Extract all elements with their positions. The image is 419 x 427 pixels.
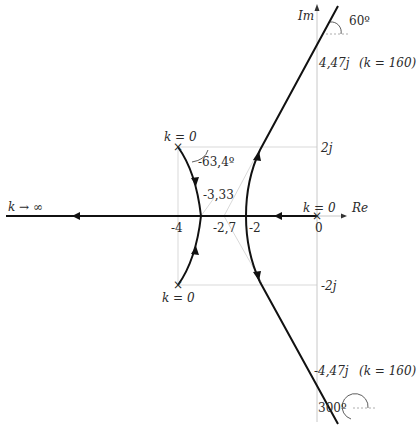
departure-angle-label: -63,4º — [198, 155, 235, 169]
tick-neg2j: -2j — [321, 279, 337, 293]
real-axis-label: Re — [351, 201, 368, 215]
origin-label: 0 — [315, 221, 323, 235]
tick-4-47j: 4,47j — [318, 56, 350, 70]
k0-origin-label: k = 0 — [303, 201, 336, 215]
angle-300-label: 300º — [318, 401, 347, 415]
k0-bottom-label: k = 0 — [162, 291, 195, 305]
branch-right-lower — [246, 216, 338, 424]
real-axis-arrow-icon — [341, 214, 347, 219]
root-locus-diagram: × × × Im Re 0 -4 -2,7 -2 2j -2j 4,47j -4… — [0, 0, 419, 427]
k160-top-label: (k = 160) — [359, 56, 417, 70]
k-infinity-label: k → ∞ — [8, 200, 43, 214]
imag-axis-label: Im — [297, 9, 314, 23]
tick-neg4: -4 — [171, 221, 183, 235]
arrow-left-far-icon — [72, 212, 80, 220]
angle-arc-60 — [330, 22, 341, 34]
tick-neg2: -2 — [249, 221, 261, 235]
locus-branches — [6, 6, 338, 424]
k0-top-label: k = 0 — [164, 130, 197, 144]
tick-neg2-7: -2,7 — [213, 221, 236, 235]
guide-lines — [178, 34, 377, 408]
arrow-origin-left-icon — [274, 212, 282, 220]
k160-bottom-label: (k = 160) — [359, 364, 417, 378]
pole-bottom-icon: × — [173, 278, 183, 292]
tick-2j: 2j — [320, 141, 333, 155]
breakaway-label: -3,33 — [203, 188, 234, 202]
imag-axis-arrow-icon — [315, 4, 320, 11]
branch-right-upper — [246, 6, 338, 216]
tick-neg4-47j: -4,47j — [314, 364, 349, 378]
angle-60-label: 60º — [349, 14, 370, 28]
